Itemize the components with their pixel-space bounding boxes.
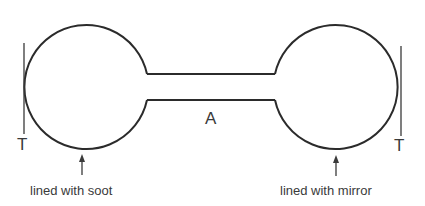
left-bulb-label: lined with soot bbox=[30, 183, 113, 198]
left-thermometer-label: T bbox=[17, 135, 27, 154]
left-arrow-icon bbox=[79, 154, 85, 175]
right-bulb-label: lined with mirror bbox=[280, 183, 372, 198]
right-arrow-icon bbox=[333, 155, 339, 176]
tube-label: A bbox=[205, 109, 217, 128]
thermoscope-diagram: T T A lined with soot lined with mirror bbox=[0, 0, 425, 206]
right-bulb bbox=[275, 25, 398, 149]
right-thermometer-label: T bbox=[394, 136, 404, 155]
left-bulb bbox=[24, 25, 147, 149]
